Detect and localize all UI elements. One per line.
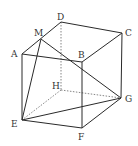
label-F: F — [78, 132, 84, 142]
label-M: M — [34, 28, 43, 38]
label-C: C — [125, 28, 132, 38]
edge-CD — [61, 22, 122, 33]
label-E: E — [11, 119, 18, 129]
label-D: D — [57, 12, 64, 22]
label-G: G — [125, 94, 132, 104]
edge-AB — [22, 54, 82, 62]
edge-EF — [22, 120, 82, 128]
label-H: H — [52, 81, 60, 91]
cube-diagram: A B C D E F G H M — [0, 0, 138, 146]
edge-BC — [82, 33, 122, 62]
edge-CG — [121, 33, 122, 98]
label-A: A — [10, 49, 18, 59]
label-B: B — [78, 50, 85, 60]
